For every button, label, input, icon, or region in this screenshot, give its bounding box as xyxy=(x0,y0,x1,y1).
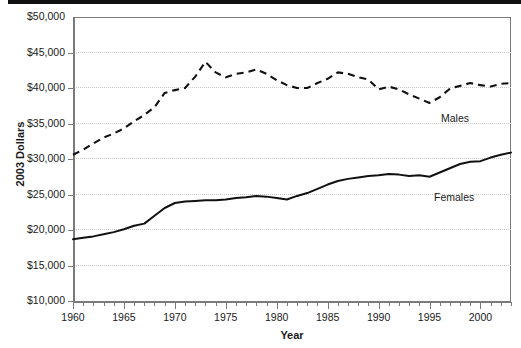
series-annotation-males: Males xyxy=(441,112,469,124)
chart-figure: 2003 Dollars Year $10,000$15,000$20,000$… xyxy=(0,0,521,348)
series-line-males xyxy=(73,62,511,155)
series-lines xyxy=(0,0,521,348)
series-annotation-females: Females xyxy=(434,191,474,203)
